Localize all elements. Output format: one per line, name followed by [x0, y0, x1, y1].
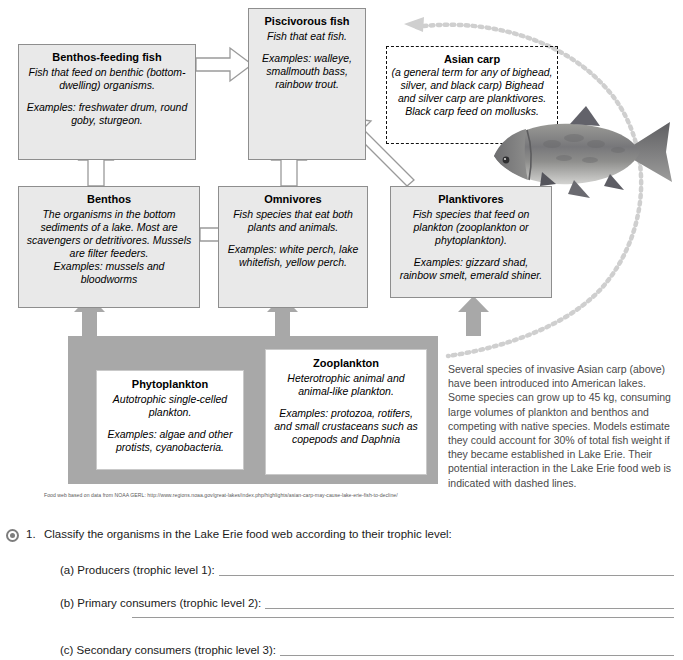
- answer-label: (a) Producers (trophic level 1):: [60, 564, 215, 576]
- box-desc: The organisms in the bottom sediments of…: [25, 208, 193, 260]
- asian-carp-photo: [482, 100, 678, 204]
- box-title: Benthos: [25, 192, 193, 206]
- answer-row-b[interactable]: (b) Primary consumers (trophic level 2):: [60, 595, 674, 609]
- answer-blank-line[interactable]: [280, 642, 674, 656]
- box-title: Asian carp: [391, 52, 553, 66]
- box-desc: Fish that eat fish.: [255, 30, 359, 43]
- answer-row-c[interactable]: (c) Secondary consumers (trophic level 3…: [60, 642, 674, 656]
- box-desc: Heterotrophic animal and animal-like pla…: [274, 372, 418, 398]
- box-title: Piscivorous fish: [255, 14, 359, 28]
- question-number: 1.: [26, 528, 36, 540]
- box-examples: Examples: gizzard shad, rainbow smelt, e…: [397, 256, 545, 282]
- box-zooplankton[interactable]: Zooplankton Heterotrophic animal and ani…: [265, 349, 427, 475]
- box-omnivores[interactable]: Omnivores Fish species that eat both pla…: [218, 186, 368, 308]
- answer-blank-line-b2[interactable]: [132, 617, 674, 618]
- radio-bullet-icon: [6, 529, 19, 542]
- source-credit: Food web based on data from NOAA GERL: h…: [44, 491, 664, 499]
- box-examples: Examples: mussels and bloodworms: [25, 260, 193, 286]
- answer-label: (c) Secondary consumers (trophic level 3…: [60, 644, 276, 656]
- box-examples: Examples: algae and other protists, cyan…: [105, 428, 235, 454]
- arrow-benthosfeeding-to-piscivorous: [196, 48, 252, 81]
- box-benthos-feeding-fish[interactable]: Benthos-feeding fish Fish that feed on b…: [18, 44, 196, 160]
- box-benthos[interactable]: Benthos The organisms in the bottom sedi…: [18, 186, 200, 308]
- box-desc: Fish that feed on benthic (bottom-dwelli…: [25, 66, 189, 92]
- box-phytoplankton[interactable]: Phytoplankton Autotrophic single-celled …: [96, 370, 244, 470]
- box-desc: Fish species that feed on plankton (zoop…: [397, 208, 545, 247]
- box-title: Omnivores: [225, 192, 361, 206]
- box-desc: Fish species that eat both plants and an…: [225, 208, 361, 234]
- box-examples: Examples: protozoa, rotifers, and small …: [274, 407, 418, 446]
- answer-blank-line[interactable]: [265, 595, 674, 609]
- box-desc: Autotrophic single-celled plankton.: [105, 393, 235, 419]
- box-examples: Examples: freshwater drum, round goby, s…: [25, 101, 189, 127]
- worksheet-question: 1. Classify the organisms in the Lake Er…: [0, 519, 683, 660]
- answer-label: (b) Primary consumers (trophic level 2):: [60, 597, 261, 609]
- box-examples: Examples: white perch, lake whitefish, y…: [225, 243, 361, 269]
- box-title: Benthos-feeding fish: [25, 50, 189, 64]
- answer-blank-line[interactable]: [219, 562, 674, 576]
- box-examples: Examples: walleye, smallmouth bass, rain…: [255, 52, 359, 91]
- asian-carp-caption: Several species of invasive Asian carp (…: [448, 362, 676, 490]
- answer-row-a[interactable]: (a) Producers (trophic level 1):: [60, 562, 674, 576]
- box-title: Zooplankton: [274, 356, 418, 370]
- box-piscivorous-fish[interactable]: Piscivorous fish Fish that eat fish. Exa…: [248, 8, 366, 160]
- box-title: Phytoplankton: [105, 377, 235, 391]
- question-prompt: Classify the organisms in the Lake Erie …: [44, 528, 452, 540]
